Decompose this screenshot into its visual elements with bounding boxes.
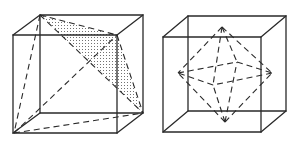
figure-two-cubes: [0, 0, 298, 141]
right-cube-octahedron: [163, 16, 286, 132]
octahedron-dashed-edges: [178, 27, 272, 122]
left-cube-tetrahedron: [13, 15, 143, 133]
